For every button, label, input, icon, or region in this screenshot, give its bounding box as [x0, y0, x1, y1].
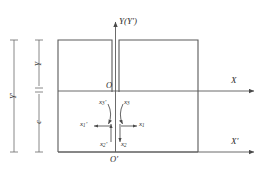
dim-outer-label: Y′	[10, 86, 18, 106]
body-outline	[58, 40, 198, 152]
x-prime-axis-label: X′	[231, 137, 238, 146]
left-block-outline	[58, 40, 112, 152]
origin-upper-label: O	[106, 81, 112, 90]
x3-prime-mark: ′	[105, 98, 107, 106]
dim-inner-lower-label: c	[35, 112, 43, 132]
diagram-canvas	[0, 0, 273, 176]
x2-prime-mark: ′	[106, 140, 108, 148]
x3-label: x3	[124, 99, 130, 106]
right-block-outline	[119, 40, 198, 152]
x3-sub: 3	[127, 101, 130, 106]
dim-inner-upper-label: Y	[35, 54, 43, 74]
origin-lower-label: O′	[110, 155, 118, 164]
figure-container: Y(Y′) X X′ O O′ Y′ Y c x3′ x3 x1′ x1 x2′…	[0, 0, 273, 176]
x1-prime-label: x1′	[80, 121, 87, 128]
x-axis-label: X	[231, 76, 237, 85]
x2-sub: 2	[124, 143, 127, 148]
x1-label: x1	[139, 121, 145, 128]
x1-sub: 1	[142, 123, 145, 128]
y-axis-label: Y(Y′)	[119, 17, 137, 26]
axis-lines	[58, 22, 254, 152]
x1-prime-mark: ′	[86, 120, 88, 128]
x2-prime-label: x2′	[100, 141, 107, 148]
x3-arc	[120, 104, 123, 124]
x2-label: x2	[121, 141, 127, 148]
x3-prime-label: x3′	[99, 99, 106, 106]
x3-prime-arc	[108, 104, 111, 124]
